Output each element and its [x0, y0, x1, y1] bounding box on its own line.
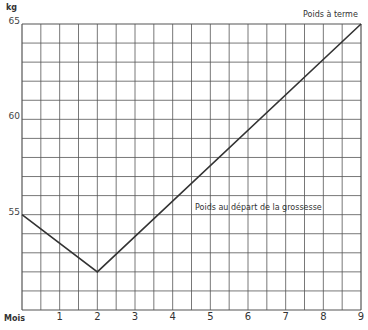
x-tick-label: 2 — [94, 311, 100, 322]
x-tick-label: 1 — [56, 311, 62, 322]
x-tick-label: 4 — [169, 311, 175, 322]
annotation-poids-depart: Poids au départ de la grossesse — [195, 203, 322, 212]
grid-lines — [22, 24, 361, 310]
x-tick-label: 6 — [245, 311, 251, 322]
y-tick-label: 65 — [0, 16, 20, 26]
y-axis-unit: kg — [6, 3, 17, 12]
x-tick-label: 5 — [207, 311, 213, 322]
x-tick-label: 9 — [358, 311, 364, 322]
y-tick-label: 55 — [0, 207, 20, 217]
annotation-poids-terme: Poids à terme — [303, 10, 358, 19]
x-axis-unit: Mois — [4, 314, 25, 323]
x-tick-label: 8 — [320, 311, 326, 322]
weight-chart — [0, 0, 368, 330]
x-tick-label: 7 — [282, 311, 288, 322]
y-tick-label: 60 — [0, 111, 20, 121]
x-tick-label: 3 — [132, 311, 138, 322]
